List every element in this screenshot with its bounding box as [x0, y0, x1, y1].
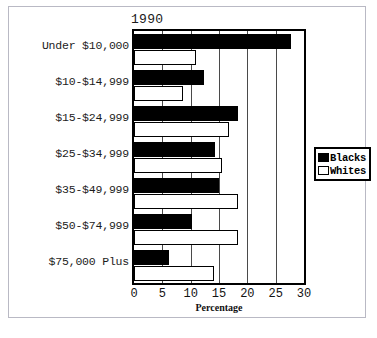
bar-group [134, 175, 304, 211]
bar-group [134, 247, 304, 283]
legend-item: Blacks [318, 151, 366, 164]
x-tick-label: 5 [159, 287, 166, 301]
category-label: Under $10,000 [7, 39, 129, 52]
bar-blacks [134, 250, 169, 265]
bar-whites [134, 266, 214, 281]
legend-label: Whites [330, 165, 366, 177]
category-label: $75,000 Plus [7, 255, 129, 268]
legend-swatch-whites [318, 166, 329, 175]
category-label: $50-$74,999 [7, 219, 129, 232]
bar-whites [134, 158, 222, 173]
bar-blacks [134, 70, 204, 85]
bar-blacks [134, 178, 219, 193]
legend-item: Whites [318, 164, 366, 177]
bar-whites [134, 86, 183, 101]
bar-blacks [134, 106, 238, 121]
x-axis-ticks: 051015202530 [132, 287, 306, 303]
x-tick-label: 15 [212, 287, 226, 301]
category-axis-labels: Under $10,000$10-$14,999$15-$24,999$25-$… [9, 29, 129, 285]
category-label: $35-$49,999 [7, 183, 129, 196]
chart-figure: 1990 Under $10,000$10-$14,999$15-$24,999… [8, 6, 366, 318]
x-axis-title: Percentage [132, 302, 306, 313]
plot-area [132, 29, 306, 285]
category-label: $15-$24,999 [7, 111, 129, 124]
bar-whites [134, 194, 238, 209]
bar-group [134, 103, 304, 139]
chart-title: 1990 [131, 12, 163, 27]
x-tick-label: 0 [130, 287, 137, 301]
bar-blacks [134, 142, 215, 157]
bar-group [134, 67, 304, 103]
category-label: $10-$14,999 [7, 75, 129, 88]
legend-label: Blacks [330, 152, 366, 164]
legend-swatch-blacks [318, 153, 329, 162]
bar-whites [134, 122, 229, 137]
bar-group [134, 139, 304, 175]
x-tick-label: 10 [183, 287, 197, 301]
x-tick-label: 20 [240, 287, 254, 301]
bar-blacks [134, 214, 192, 229]
category-label: $25-$34,999 [7, 147, 129, 160]
x-tick-label: 30 [297, 287, 311, 301]
plot-inner [134, 31, 304, 283]
bar-group [134, 31, 304, 67]
bar-whites [134, 50, 196, 65]
chart-legend: BlacksWhites [314, 147, 371, 181]
bar-whites [134, 230, 238, 245]
x-tick-label: 25 [268, 287, 282, 301]
bar-blacks [134, 34, 291, 49]
bar-group [134, 211, 304, 247]
